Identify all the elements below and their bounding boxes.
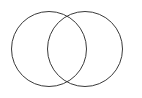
venn-diagram-canvas (0, 0, 142, 98)
venn-diagram-svg (0, 0, 142, 98)
canvas-background (0, 0, 142, 98)
